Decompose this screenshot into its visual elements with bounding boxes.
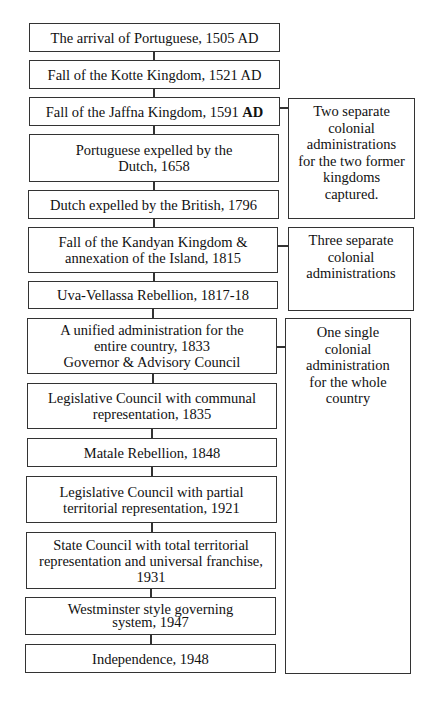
event-label: Independence, 1948 [92,651,209,667]
timeline-event-state-council-1931: State Council with total territorial rep… [26,532,276,589]
connector-2-3 [153,88,155,97]
connector-phase-2 [278,245,288,247]
connector-12-13 [150,588,152,597]
connector-3-4 [153,125,155,134]
connector-5-6 [153,218,155,227]
event-label: Dutch expelled by the British, 1796 [50,197,257,213]
connector-1-2 [153,51,155,60]
event-label: Legislative Council with partial territo… [55,484,248,516]
timeline-event-dutch-expel-portuguese: Portuguese expelled by the Dutch, 1658 [29,134,279,182]
timeline-event-jaffna-fall: Fall of the Jaffna Kingdom, 1591 AD [29,97,280,126]
event-label: Legislative Council with communal repres… [42,390,262,422]
connector-13-14 [150,634,152,644]
timeline-event-westminster-system: Westminster style governing system, 1947 [25,597,276,635]
event-label: State Council with total territorial rep… [33,537,269,585]
timeline-event-kandyan-fall: Fall of the Kandyan Kingdom & annexation… [28,227,278,273]
event-label: Fall of the Kotte Kingdom, 1521 AD [48,67,262,83]
phase-label: Three separate colonial administrations [306,232,395,281]
connector-11-12 [151,522,153,532]
timeline-event-portuguese-arrival: The arrival of Portuguese, 1505 AD [29,23,280,52]
connector-10-11 [151,466,153,476]
event-label: Fall of the Kandyan Kingdom & annexation… [57,234,249,266]
event-label: Uva-Vellassa Rebellion, 1817-18 [57,287,249,303]
timeline-event-unified-administration: A unified administration for the entire … [27,318,277,374]
event-label: The arrival of Portuguese, 1505 AD [51,30,259,46]
event-label: Fall of the Jaffna Kingdom, 1591 AD [46,104,264,120]
phase-single-administration: One single colonial administration for t… [285,318,411,674]
event-label: Westminster style governing system, 1947 [46,603,255,629]
timeline-event-british-expel-dutch: Dutch expelled by the British, 1796 [28,190,279,219]
timeline-event-legislative-council-1921: Legislative Council with partial territo… [26,476,277,523]
connector-8-9 [152,373,154,383]
timeline-event-matale-rebellion: Matale Rebellion, 1848 [27,438,277,467]
event-label-main: Fall of the Jaffna Kingdom, 1591 [46,104,243,120]
event-label-bold-suffix: AD [242,104,263,120]
phase-three-administrations: Three separate colonial administrations [288,227,414,311]
event-sublabel: Governor & Advisory Council [64,354,241,370]
timeline-event-legislative-council-1835: Legislative Council with communal repres… [27,383,277,429]
timeline-event-independence: Independence, 1948 [25,644,276,673]
connector-9-10 [151,428,153,438]
phase-label: One single colonial administration for t… [306,324,390,406]
event-label: Portuguese expelled by the Dutch, 1658 [58,142,250,174]
event-label: A unified administration for the entire … [38,322,266,354]
timeline-event-uva-vellassa: Uva-Vellassa Rebellion, 1817-18 [28,281,278,309]
connector-7-8 [152,308,154,318]
phase-label: Two separate colonial administrations fo… [298,103,405,202]
connector-6-7 [153,272,155,281]
phase-two-administrations: Two separate colonial administrations fo… [288,98,415,219]
connector-4-5 [153,181,155,190]
event-label: Matale Rebellion, 1848 [84,445,221,461]
timeline-event-kotte-fall: Fall of the Kotte Kingdom, 1521 AD [29,60,280,89]
